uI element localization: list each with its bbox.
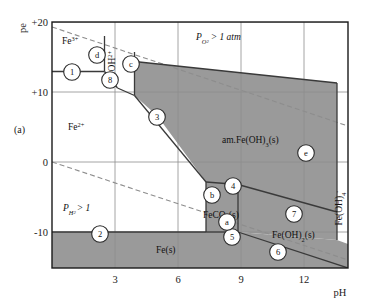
marker-b-label: b	[210, 190, 214, 200]
marker-b: b	[204, 187, 221, 204]
marker-6: 6	[270, 244, 287, 261]
y-tick-label-10: +10	[32, 87, 48, 98]
y-axis-label: pe	[17, 23, 28, 33]
pe-ph-diagram-figure: +20 +10 0 -10 3 6 9 12 pH pe (a) Fe3+ Fe…	[0, 0, 365, 302]
marker-3-label: 3	[155, 112, 159, 122]
panel-label: (a)	[14, 124, 25, 136]
marker-5-label: 5	[230, 232, 234, 242]
marker-3: 3	[149, 109, 166, 126]
marker-7: 7	[286, 206, 303, 223]
marker-2: 2	[92, 226, 109, 243]
x-tick-label-9: 9	[238, 274, 243, 285]
x-tick-label-6: 6	[175, 274, 180, 285]
x-axis-label: pH	[334, 287, 347, 298]
pourbaix-diagram-svg: +20 +10 0 -10 3 6 9 12 pH pe (a) Fe3+ Fe…	[0, 0, 365, 302]
marker-1: 1	[64, 64, 81, 81]
label-fe-solid: Fe(s)	[156, 245, 176, 256]
marker-e-label: e	[304, 148, 308, 158]
marker-5: 5	[224, 229, 241, 246]
x-tick-label-12: 12	[299, 274, 310, 285]
marker-c-label: c	[129, 59, 133, 69]
marker-4: 4	[225, 178, 242, 195]
marker-a: a	[219, 214, 236, 231]
y-tick-label-minus10: -10	[34, 227, 48, 238]
x-tick-label-3: 3	[112, 274, 117, 285]
marker-7-label: 7	[292, 209, 296, 219]
marker-a-label: a	[225, 217, 229, 227]
marker-8-label: 8	[108, 75, 112, 85]
marker-1-label: 1	[70, 67, 74, 77]
marker-6-label: 6	[276, 247, 280, 257]
marker-e: e	[298, 145, 315, 162]
y-tick-label-0: 0	[43, 157, 48, 168]
marker-2-label: 2	[98, 229, 102, 239]
marker-d: d	[89, 47, 106, 64]
marker-c: c	[123, 56, 140, 73]
y-tick-label-20: +20	[32, 17, 48, 28]
marker-8: 8	[102, 72, 119, 89]
